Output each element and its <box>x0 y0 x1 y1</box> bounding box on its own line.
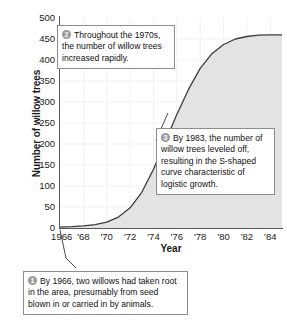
x-tick-1980: '80 <box>217 231 229 242</box>
y-tick-50: 50 <box>22 202 55 212</box>
y-tick-500: 500 <box>22 13 55 23</box>
y-tick-400: 400 <box>22 55 55 65</box>
callout-3-badge: 3 <box>161 133 170 142</box>
x-axis-line <box>59 228 283 229</box>
callout-1: 1By 1966, two willows had taken root in … <box>23 271 188 315</box>
x-axis-title: Year <box>60 243 282 254</box>
x-tick-1966: 1966 <box>51 231 72 242</box>
y-tick-150: 150 <box>22 160 55 170</box>
x-tick-1968: '68 <box>77 231 89 242</box>
callout-3-text: 3By 1983, the number of willow trees lev… <box>161 133 269 190</box>
y-tick-450: 450 <box>22 34 55 44</box>
callout-2-text: 2Throughout the 1970s, the number of wil… <box>62 30 169 64</box>
callout-1-badge: 1 <box>28 276 37 285</box>
callout-2-badge: 2 <box>62 30 71 39</box>
x-tick-1974: '74 <box>147 231 159 242</box>
y-tick-350: 350 <box>22 76 55 86</box>
x-tick-1972: '72 <box>124 231 136 242</box>
x-tick-1982: '82 <box>241 231 253 242</box>
y-tick-0: 0 <box>22 223 55 233</box>
y-tick-250: 250 <box>22 118 55 128</box>
logistic-growth-chart: Number of willow trees 0 50 100 150 200 … <box>0 0 287 326</box>
callout-3: 3By 1983, the number of willow trees lev… <box>156 128 275 195</box>
y-tick-200: 200 <box>22 139 55 149</box>
callout-2: 2Throughout the 1970s, the number of wil… <box>57 25 175 69</box>
callout-1-text: 1By 1966, two willows had taken root in … <box>28 276 182 310</box>
x-tick-1978: '78 <box>194 231 206 242</box>
y-tick-300: 300 <box>22 97 55 107</box>
y-tick-100: 100 <box>22 181 55 191</box>
x-tick-1970: '70 <box>100 231 112 242</box>
x-tick-1984: '84 <box>264 231 276 242</box>
x-tick-1976: '76 <box>171 231 183 242</box>
